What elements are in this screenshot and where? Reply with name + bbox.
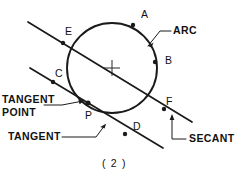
secant-line: [28, 22, 192, 122]
label-point-p: P: [85, 110, 92, 121]
label-tangent-point-line2: POINT: [2, 107, 36, 118]
geometry-figure: A B C D E F P ARC SECANT TANGENT TANGENT…: [0, 0, 246, 178]
point-dot-p: [85, 100, 90, 105]
label-point-c: C: [55, 68, 63, 79]
label-point-f: F: [166, 96, 173, 107]
label-point-d: D: [133, 121, 141, 132]
label-tangent: TANGENT: [8, 131, 61, 142]
circle-diagram-canvas: [0, 0, 246, 178]
point-dot-e: [61, 41, 65, 45]
point-dot-a: [131, 23, 135, 27]
label-arc: ARC: [173, 25, 197, 36]
label-tangent-point-line1: TANGENT: [2, 94, 55, 105]
point-dot-f: [162, 107, 166, 111]
tangent-leader: [62, 124, 106, 137]
point-dot-b: [153, 60, 157, 64]
label-secant: SECANT: [189, 133, 235, 144]
label-point-e: E: [65, 26, 72, 37]
point-dot-d: [123, 132, 127, 136]
figure-caption: ( 2 ): [102, 158, 127, 169]
point-dot-c: [51, 80, 55, 84]
arc-leader: [148, 31, 171, 48]
label-point-b: B: [165, 55, 172, 66]
label-point-a: A: [141, 9, 148, 20]
